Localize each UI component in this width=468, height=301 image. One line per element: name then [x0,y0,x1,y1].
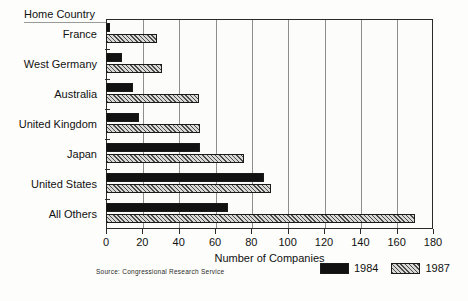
bar-1984-australia [106,83,133,92]
bar-row [106,109,433,139]
bar-1984-west-germany [106,53,122,62]
bar-row [106,79,433,109]
x-tick [360,229,361,234]
bar-1984-united-kingdom [106,113,139,122]
legend-swatch-1984 [320,263,349,274]
y-axis-title: Home Country [24,8,95,20]
bar-row [106,49,433,79]
bar-1987-australia [106,94,199,103]
bar-row [106,19,433,49]
y-axis-title-rule [24,22,106,23]
y-axis-label: France [63,28,97,40]
y-axis-label: All Others [49,208,97,220]
x-tick-label: 60 [195,236,235,248]
bar-row [106,169,433,199]
x-tick [397,229,398,234]
y-tick-minor [105,49,110,50]
bar-1987-france [106,34,157,43]
bar-chart: Home Country FranceWest GermanyAustralia… [0,0,468,301]
x-tick-label: 160 [377,236,417,248]
legend-label-1984: 1984 [354,262,378,274]
x-tick-label: 40 [159,236,199,248]
x-tick-label: 140 [340,236,380,248]
y-tick-minor [105,79,110,80]
bar-1984-japan [106,143,200,152]
x-tick [142,229,143,234]
x-tick-label: 80 [231,236,271,248]
x-tick-label: 180 [413,236,453,248]
x-tick [215,229,216,234]
x-tick [179,229,180,234]
bar-1987-west-germany [106,64,162,73]
y-tick-minor [105,199,110,200]
legend-label-1987: 1987 [425,262,449,274]
x-tick-label: 120 [304,236,344,248]
x-tick [433,229,434,234]
x-tick-label: 0 [86,236,126,248]
y-tick-minor [105,139,110,140]
bar-1987-all-others [106,214,415,223]
bar-row [106,139,433,169]
bar-1984-france [106,23,110,32]
y-axis-label: Japan [67,148,97,160]
source-note: Source: Congressional Research Service [96,268,224,275]
x-tick [324,229,325,234]
y-axis-label: West Germany [24,58,97,70]
y-tick-minor [105,109,110,110]
bar-1984-united-states [106,173,264,182]
y-tick-minor [105,169,110,170]
x-tick [251,229,252,234]
x-tick-label: 20 [122,236,162,248]
bar-1987-united-states [106,184,271,193]
bar-1984-all-others [106,203,228,212]
x-tick [288,229,289,234]
legend-swatch-1987 [391,263,420,274]
bar-1987-united-kingdom [106,124,200,133]
x-tick [106,229,107,234]
legend: 1984 1987 [320,262,458,274]
bar-1987-japan [106,154,244,163]
bar-rows [106,19,433,229]
x-tick-label: 100 [268,236,308,248]
bar-row [106,199,433,229]
y-axis-label: United States [31,178,97,190]
y-axis-label: United Kingdom [19,118,97,130]
y-axis-label: Australia [54,88,97,100]
